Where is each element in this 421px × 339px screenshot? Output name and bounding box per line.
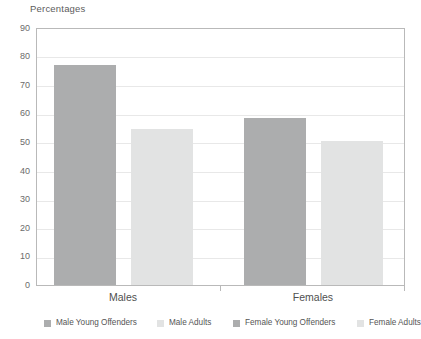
x-axis-label-males: Males (63, 291, 183, 303)
legend-swatch-icon (357, 320, 364, 327)
legend-swatch-icon (233, 320, 240, 327)
bar-male-adults[interactable] (131, 129, 193, 285)
legend-item-male-adults[interactable]: Male Adults (157, 316, 211, 330)
y-axis-tick-60: 60 (0, 108, 30, 118)
legend-label: Female Young Offenders (245, 318, 335, 328)
legend-swatch-icon (157, 320, 164, 327)
y-axis-tick-90: 90 (0, 23, 30, 33)
y-axis-tick-10: 10 (0, 251, 30, 261)
chart-legend: Male Young Offenders Male Adults Female … (0, 316, 418, 330)
chart-title: Percentages (30, 3, 86, 14)
legend-label: Female Adults (369, 318, 421, 328)
y-axis-tick-20: 20 (0, 223, 30, 233)
x-axis-tick-middle (220, 286, 221, 291)
plot-area (36, 28, 405, 286)
legend-label: Male Adults (169, 318, 211, 328)
legend-label: Male Young Offenders (56, 318, 137, 328)
legend-item-male-young-offenders[interactable]: Male Young Offenders (44, 316, 137, 330)
y-axis-tick-0: 0 (0, 280, 30, 290)
bar-male-young-offenders[interactable] (54, 65, 116, 285)
legend-item-female-adults[interactable]: Female Adults (357, 316, 421, 330)
x-axis-tick-right (404, 286, 405, 291)
bar-female-adults[interactable] (321, 141, 383, 285)
bars-layer (37, 29, 404, 285)
legend-item-female-young-offenders[interactable]: Female Young Offenders (233, 316, 335, 330)
x-axis-label-females: Females (253, 291, 373, 303)
legend-swatch-icon (44, 320, 51, 327)
y-axis-tick-70: 70 (0, 80, 30, 90)
bar-female-young-offenders[interactable] (244, 118, 306, 285)
y-axis-tick-30: 30 (0, 194, 30, 204)
y-axis-tick-40: 40 (0, 166, 30, 176)
y-axis-tick-50: 50 (0, 137, 30, 147)
y-axis-tick-80: 80 (0, 51, 30, 61)
